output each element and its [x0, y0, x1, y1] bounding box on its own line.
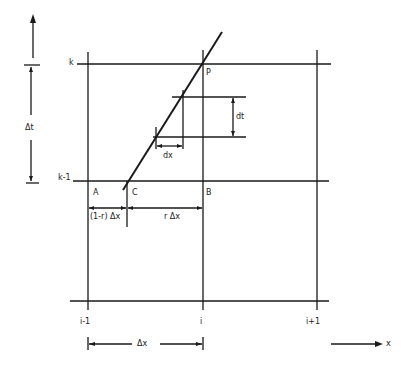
label-delta-t: Δt: [25, 124, 34, 132]
arrowhead-right-x: [375, 341, 383, 347]
label-col-i-1: i-1: [80, 318, 90, 326]
label-dt: dt: [236, 113, 244, 121]
label-col-i: i: [200, 318, 202, 326]
label-point-p: P: [206, 69, 211, 77]
label-span-delta-x: Δx: [137, 340, 147, 348]
label-point-a: A: [93, 189, 98, 197]
label-dx: dx: [163, 152, 173, 160]
label-segment-r: r Δx: [164, 213, 180, 221]
arrowhead-up: [30, 14, 36, 23]
label-segment-1-r: (1-r) Δx: [90, 213, 120, 221]
label-point-c: C: [132, 189, 138, 197]
characteristic-line: [123, 32, 222, 190]
label-k: k: [69, 59, 74, 67]
label-x-axis: x: [386, 340, 391, 348]
label-point-b: B: [206, 189, 212, 197]
label-k-1: k-1: [58, 174, 71, 182]
label-col-i+1: i+1: [306, 318, 320, 326]
